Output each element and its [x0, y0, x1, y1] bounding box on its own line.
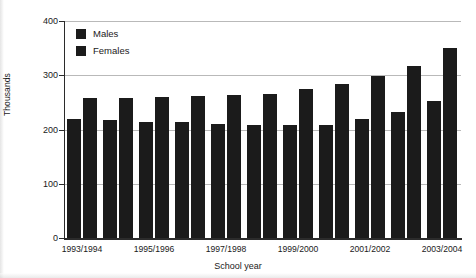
bar-females-2003-2004	[443, 48, 457, 238]
y-tick-label: 0	[28, 234, 58, 243]
x-axis-title: School year	[0, 261, 476, 271]
bar-males-2001-2002	[355, 119, 369, 238]
legend-item-males: Males	[76, 25, 196, 42]
x-tick-label: 2001/2002	[350, 244, 391, 254]
legend-label-females: Females	[93, 46, 129, 56]
bar-males-1995-1996	[139, 122, 153, 238]
bar-males-2003-2004	[427, 101, 441, 238]
bar-females-1995-1996	[155, 97, 169, 238]
bar-females-1999-2000	[299, 89, 313, 238]
bar-females-1996-1997	[191, 96, 205, 238]
x-tick-label: 1993/1994	[62, 244, 103, 254]
scan-edge-bottom	[0, 273, 476, 278]
bar-females-1998-1999	[263, 94, 277, 238]
y-tick-label: 200	[28, 126, 58, 135]
bar-chart: Thousands 0100200300400 1993/19941995/19…	[0, 0, 476, 278]
bar-males-1999-2000	[283, 125, 297, 238]
bar-males-1994-1995	[103, 120, 117, 238]
bar-males-1993-1994	[67, 119, 81, 238]
bar-males-1997-1998	[211, 124, 225, 238]
legend: Males Females	[76, 25, 196, 59]
bar-females-1997-1998	[227, 95, 241, 238]
legend-swatch-males-icon	[76, 29, 86, 39]
legend-item-females: Females	[76, 42, 196, 59]
bar-females-2001-2002	[371, 76, 385, 238]
bar-females-2000-2001	[335, 84, 349, 238]
bar-males-2000-2001	[319, 125, 333, 238]
bar-males-1998-1999	[247, 125, 261, 238]
bar-females-1993-1994	[83, 98, 97, 238]
y-tick-label: 300	[28, 71, 58, 80]
y-axis-title: Thousands	[2, 36, 14, 116]
bar-males-1996-1997	[175, 122, 189, 238]
x-tick-label: 2003/2004	[422, 244, 463, 254]
legend-label-males: Males	[93, 29, 118, 39]
y-tick-label: 100	[28, 180, 58, 189]
y-tick-label: 400	[28, 17, 58, 26]
x-tick-label: 1999/2000	[278, 244, 319, 254]
x-axis-line	[64, 238, 462, 240]
x-tick-label: 1997/1998	[206, 244, 247, 254]
bar-females-1994-1995	[119, 98, 133, 238]
bar-females-2002-2003	[407, 66, 421, 239]
legend-swatch-females-icon	[76, 46, 86, 56]
bar-males-2002-2003	[391, 112, 405, 238]
x-tick-label: 1995/1996	[134, 244, 175, 254]
